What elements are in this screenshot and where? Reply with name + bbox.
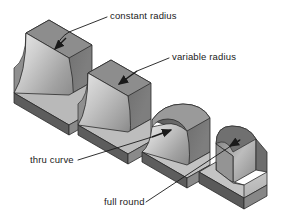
label-thru-curve: thru curve <box>30 154 74 165</box>
label-constant-radius: constant radius <box>110 10 177 21</box>
fillet-types-diagram: constant radius variable radius thru cur… <box>0 0 287 224</box>
label-variable-radius: variable radius <box>172 51 236 62</box>
leader-variable-radius <box>137 58 169 71</box>
upright-right-face <box>256 139 267 172</box>
label-full-round: full round <box>104 196 145 207</box>
